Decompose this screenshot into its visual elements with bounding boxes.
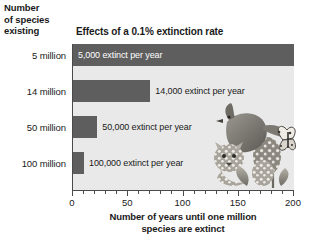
x-tick-label-150: 150	[230, 197, 246, 208]
x-axis-title: Number of years until one million specie…	[72, 211, 294, 235]
x-tick-label-0: 0	[69, 197, 74, 208]
x-tick-0	[72, 190, 73, 196]
x-tick-180	[271, 190, 272, 194]
y-axis-header-line-3: existing	[4, 25, 76, 37]
x-tick-100	[183, 190, 184, 196]
x-tick-90	[171, 190, 172, 194]
x-axis-title-line-1: Number of years until one million	[72, 211, 294, 223]
x-tick-140	[227, 190, 228, 194]
bar-row-0: 5,000 extinct per year	[73, 44, 294, 66]
chart-title: Effects of a 0.1% extinction rate	[76, 26, 223, 37]
x-tick-80	[160, 190, 161, 194]
y-tick-label-1: 14 million	[27, 86, 66, 97]
x-tick-70	[149, 190, 150, 194]
y-axis-header-line-2: of species	[4, 14, 76, 26]
bar-1	[73, 80, 150, 102]
y-tick-label-0: 5 million	[32, 50, 66, 61]
bar-label-1: 14,000 extinct per year	[155, 86, 244, 96]
x-tick-30	[105, 190, 106, 194]
x-tick-50	[127, 190, 128, 196]
bar-label-3: 100,000 extinct per year	[89, 158, 183, 168]
x-tick-label-50: 50	[122, 197, 133, 208]
bar-label-2: 50,000 extinct per year	[102, 122, 191, 132]
bar-label-0: 5,000 extinct per year	[78, 50, 162, 60]
bar-2	[73, 116, 97, 138]
x-tick-10	[83, 190, 84, 194]
plot-area: 5,000 extinct per year 14,000 extinct pe…	[72, 44, 294, 190]
x-tick-170	[260, 190, 261, 194]
x-tick-label-200: 200	[285, 197, 301, 208]
y-axis-header: Number of species existing	[4, 2, 76, 37]
x-tick-160	[249, 190, 250, 194]
x-tick-150	[238, 190, 239, 196]
x-tick-label-100: 100	[175, 197, 191, 208]
x-tick-120	[205, 190, 206, 194]
y-tick-label-3: 100 million	[22, 158, 66, 169]
x-tick-40	[116, 190, 117, 194]
x-tick-110	[194, 190, 195, 194]
bar-row-2: 50,000 extinct per year	[73, 116, 294, 138]
y-axis-header-line-1: Number	[4, 2, 76, 14]
x-tick-130	[216, 190, 217, 194]
bar-3	[73, 152, 84, 174]
x-tick-20	[94, 190, 95, 194]
y-axis-tick-labels: 5 million 14 million 50 million 100 mill…	[0, 44, 66, 190]
x-tick-190	[282, 190, 283, 194]
x-tick-60	[138, 190, 139, 194]
bar-row-1: 14,000 extinct per year	[73, 80, 294, 102]
y-tick-label-2: 50 million	[27, 122, 66, 133]
x-axis-title-line-2: species are extinct	[72, 223, 294, 235]
bar-row-3: 100,000 extinct per year	[73, 152, 294, 174]
x-tick-200	[293, 190, 294, 196]
